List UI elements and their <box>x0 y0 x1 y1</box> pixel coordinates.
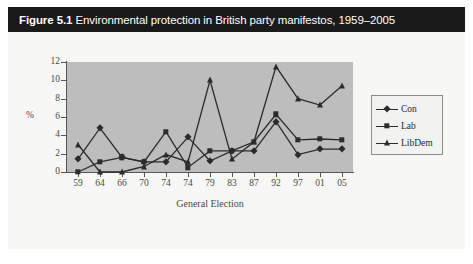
legend-item-con: Con <box>376 100 442 118</box>
legend-marker-triangle-icon <box>376 138 398 148</box>
legend-item-lab: Lab <box>376 117 442 135</box>
data-point-libdem <box>119 169 125 175</box>
data-point-libdem <box>207 77 213 83</box>
data-point-lab <box>273 112 278 117</box>
data-point-lab <box>295 137 300 142</box>
data-point-lab <box>207 148 212 153</box>
data-point-libdem <box>185 158 191 164</box>
data-point-libdem <box>97 169 103 175</box>
data-point-libdem <box>273 63 279 69</box>
data-point-lab <box>229 148 234 153</box>
figure-caption-text: Environmental protection in British part… <box>75 14 395 26</box>
data-point-libdem <box>229 156 235 162</box>
legend-item-libdem: LibDem <box>376 134 442 152</box>
legend-marker-square-icon <box>376 121 398 131</box>
data-point-lab <box>339 137 344 142</box>
data-point-libdem <box>339 82 345 88</box>
data-point-libdem <box>317 102 323 108</box>
data-point-libdem <box>75 141 81 147</box>
data-point-lab <box>119 155 124 160</box>
legend-marker-glyph <box>384 140 390 146</box>
figure-number: Figure 5.1 <box>19 14 72 26</box>
data-point-lab <box>75 169 80 174</box>
screenshot-page: Figure 5.1 Environmental protection in B… <box>0 0 473 264</box>
figure-caption: Figure 5.1 Environmental protection in B… <box>8 14 395 26</box>
data-point-libdem <box>295 95 301 101</box>
legend-label: Con <box>398 104 417 114</box>
data-point-lab <box>97 159 102 164</box>
data-point-lab <box>185 165 190 170</box>
data-point-libdem <box>251 138 257 144</box>
legend-marker-glyph <box>384 123 389 128</box>
data-point-lab <box>317 136 322 141</box>
chart-region: % General Election 024681012 59646670747… <box>8 32 465 249</box>
data-point-libdem <box>141 163 147 169</box>
figure-caption-bar: Figure 5.1 Environmental protection in B… <box>8 7 465 32</box>
chart-legend: ConLabLibDem <box>371 95 443 155</box>
legend-label: Lab <box>398 121 416 131</box>
data-point-lab <box>163 129 168 134</box>
legend-marker-diamond-icon <box>376 104 398 114</box>
legend-label: LibDem <box>398 138 433 148</box>
legend-marker-glyph <box>383 105 390 112</box>
data-point-libdem <box>163 151 169 157</box>
